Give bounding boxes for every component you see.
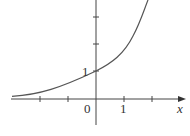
x-tick-label-1: 1 [120,101,127,116]
origin-label: 0 [84,101,91,116]
x-axis-label: x [176,101,183,116]
exponential-curve [12,0,148,96]
y-tick-label-1: 1 [82,64,89,79]
graph: 0 1 1 x [0,0,190,136]
